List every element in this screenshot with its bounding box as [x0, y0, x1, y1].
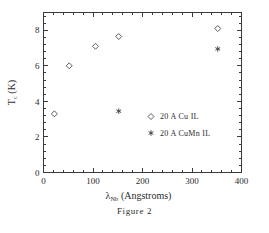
- data-point-markers: [51, 26, 220, 117]
- x-axis-minor-ticks: [53, 13, 231, 173]
- scatter-plot: 0100200300400 02468 20 A Cu IL20 A CuMn …: [0, 0, 269, 205]
- y-tick-label: 0: [35, 168, 40, 178]
- x-tick-label: 400: [235, 176, 249, 186]
- y-axis-title: Tc (K): [6, 80, 18, 105]
- x-axis-major-ticks: [44, 13, 242, 173]
- y-axis-tick-labels: 02468: [35, 25, 40, 177]
- legend-entry-1: 20 A CuMn IL: [149, 129, 211, 138]
- figure-2-container: 0100200300400 02468 20 A Cu IL20 A CuMn …: [0, 0, 269, 233]
- x-tick-label: 200: [136, 176, 150, 186]
- axes-frame: [44, 13, 242, 173]
- series-0: [51, 26, 220, 117]
- data-point-diamond: [92, 43, 98, 49]
- legend-label: 20 A Cu IL: [160, 112, 199, 121]
- chart-legend: 20 A Cu IL20 A CuMn IL: [148, 112, 211, 138]
- data-point-diamond: [215, 26, 221, 32]
- legend-entry-0: 20 A Cu IL: [148, 112, 199, 121]
- data-point-diamond: [116, 34, 122, 40]
- x-axis-title: λNb (Angstroms): [106, 190, 172, 202]
- y-axis-minor-ticks: [44, 16, 242, 165]
- y-tick-label: 2: [35, 132, 40, 142]
- legend-marker-asterisk: [149, 130, 154, 136]
- data-point-asterisk: [116, 108, 121, 114]
- figure-caption: Figure 2: [0, 206, 269, 216]
- x-tick-label: 0: [41, 176, 46, 186]
- y-tick-label: 6: [35, 61, 40, 71]
- legend-label: 20 A CuMn IL: [160, 129, 211, 138]
- x-tick-label: 100: [86, 176, 100, 186]
- legend-marker-diamond: [148, 114, 154, 120]
- y-tick-label: 4: [35, 97, 40, 107]
- data-point-diamond: [51, 111, 57, 117]
- y-axis-major-ticks: [44, 30, 242, 172]
- y-tick-label: 8: [35, 25, 40, 35]
- x-tick-label: 300: [185, 176, 199, 186]
- data-point-asterisk: [215, 46, 220, 52]
- series-1: [116, 46, 220, 114]
- x-axis-tick-labels: 0100200300400: [41, 176, 249, 186]
- data-point-diamond: [66, 63, 72, 69]
